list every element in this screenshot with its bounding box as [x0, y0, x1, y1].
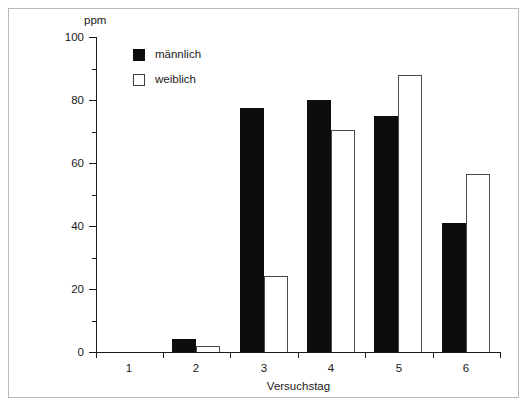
y-tick-minor-50	[92, 195, 97, 196]
y-axis-line	[96, 37, 97, 353]
y-tick-label-60-wrap: 60	[40, 158, 84, 170]
y-tick-label-0-wrap: 0	[40, 347, 84, 359]
legend-item-weiblich[interactable]: weiblich	[133, 67, 201, 92]
y-tick-40	[89, 226, 96, 227]
y-tick-label-0: 0	[40, 347, 84, 359]
x-tick-5	[433, 352, 434, 358]
y-tick-label-40: 40	[40, 221, 84, 233]
y-tick-label-20-wrap: 20	[40, 284, 84, 296]
y-tick-minor-30	[92, 258, 97, 259]
bar-chart-plot: ppm 100 80 60 40 20 0	[0, 0, 527, 406]
bar-female-day-6	[466, 174, 490, 352]
bar-female-day-2	[196, 346, 220, 352]
y-tick-60	[89, 163, 96, 164]
bar-female-day-4	[331, 130, 355, 352]
x-axis-title: Versuchstag	[96, 380, 501, 392]
y-tick-0	[89, 352, 96, 353]
y-tick-minor-90	[92, 69, 97, 70]
bar-male-day-6	[442, 223, 466, 352]
x-tick-label-6: 6	[446, 362, 486, 374]
y-tick-label-60: 60	[40, 158, 84, 170]
legend-item-maennlich[interactable]: männlich	[133, 42, 201, 67]
x-tick-label-4: 4	[311, 362, 351, 374]
y-tick-label-80: 80	[40, 95, 84, 107]
y-tick-20	[89, 289, 96, 290]
y-tick-label-80-wrap: 80	[40, 95, 84, 107]
chart-legend: männlich weiblich	[133, 42, 201, 92]
y-tick-label-40-wrap: 40	[40, 221, 84, 233]
y-tick-label-20: 20	[40, 284, 84, 296]
bar-male-day-2	[172, 339, 196, 352]
y-axis-unit-label: ppm	[84, 14, 106, 26]
bar-male-day-3	[240, 108, 264, 352]
y-tick-label-100: 100	[40, 32, 84, 44]
x-tick-end	[500, 352, 501, 358]
legend-label-maennlich: männlich	[155, 49, 201, 61]
legend-swatch-male-icon	[133, 49, 145, 61]
x-tick-3	[298, 352, 299, 358]
bar-male-day-4	[307, 100, 331, 352]
x-tick-1	[163, 352, 164, 358]
x-tick-4	[365, 352, 366, 358]
y-tick-100	[89, 37, 96, 38]
bar-female-day-5	[398, 75, 422, 352]
x-tick-2	[230, 352, 231, 358]
chart-page: ppm 100 80 60 40 20 0	[0, 0, 527, 406]
legend-swatch-female-icon	[133, 74, 145, 86]
x-tick-label-3: 3	[244, 362, 284, 374]
legend-label-weiblich: weiblich	[155, 74, 196, 86]
x-tick-label-2: 2	[176, 362, 216, 374]
y-tick-minor-70	[92, 132, 97, 133]
bar-female-day-3	[264, 276, 288, 352]
x-tick-label-1: 1	[109, 362, 149, 374]
bar-male-day-5	[374, 116, 398, 352]
x-tick-label-5: 5	[379, 362, 419, 374]
y-tick-80	[89, 100, 96, 101]
y-tick-label-100-wrap: 100	[40, 32, 84, 44]
x-tick-start	[96, 352, 97, 358]
y-tick-minor-10	[92, 321, 97, 322]
